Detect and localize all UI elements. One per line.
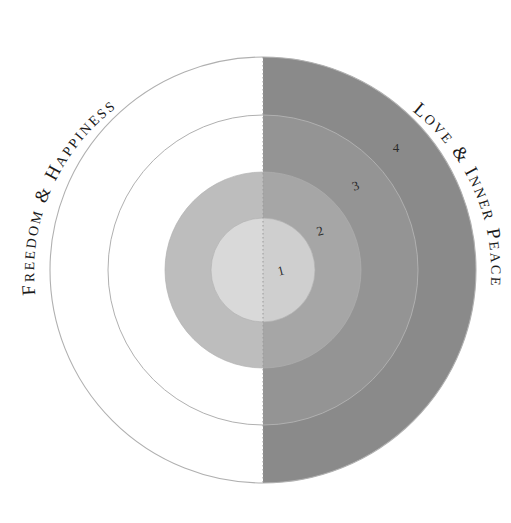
ring-label-4: 4: [393, 140, 400, 155]
concentric-rings-diagram: 1 2 3 4 FREEDOM & HAPPINESS LOVE & INNER…: [0, 0, 511, 523]
diagram-canvas: 1 2 3 4 FREEDOM & HAPPINESS LOVE & INNER…: [0, 0, 511, 523]
